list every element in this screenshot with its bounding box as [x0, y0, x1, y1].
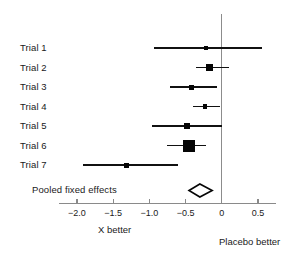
study-label: Trial 5	[20, 120, 47, 131]
effect-estimate-marker	[183, 140, 195, 152]
x-axis-tick-label: −2.0	[62, 208, 92, 218]
x-axis-line	[59, 203, 276, 204]
reference-line-zero	[221, 14, 222, 203]
x-axis-tick	[221, 199, 222, 203]
x-axis-caption-left: X better	[98, 224, 131, 235]
confidence-interval-line	[154, 47, 261, 48]
confidence-interval-line	[83, 164, 179, 165]
study-label: Trial 3	[20, 81, 47, 92]
effect-estimate-marker	[184, 123, 190, 129]
x-axis-tick	[185, 199, 186, 203]
study-label: Trial 4	[20, 101, 47, 112]
study-label: Trial 2	[20, 62, 47, 73]
x-axis-tick-label: 0	[207, 208, 237, 218]
effect-estimate-marker	[204, 46, 208, 50]
pooled-effect-diamond	[187, 182, 214, 199]
study-label: Trial 1	[20, 42, 47, 53]
x-axis-tick-label: 0.5	[243, 208, 273, 218]
pooled-effects-label: Pooled fixed effects	[32, 184, 117, 195]
x-axis-tick	[113, 199, 114, 203]
x-axis-tick	[76, 199, 77, 203]
effect-estimate-marker	[124, 163, 129, 168]
x-axis-caption-right: Placebo better	[219, 236, 280, 247]
study-label: Trial 6	[20, 140, 47, 151]
x-axis-tick	[257, 199, 258, 203]
forest-plot: Trial 1Trial 2Trial 3Trial 4Trial 5Trial…	[0, 0, 307, 254]
x-axis-tick-label: −1.5	[98, 208, 128, 218]
study-label: Trial 7	[20, 159, 47, 170]
plot-area: Trial 1Trial 2Trial 3Trial 4Trial 5Trial…	[0, 0, 307, 254]
x-axis-tick	[149, 199, 150, 203]
effect-estimate-marker	[189, 85, 194, 90]
x-axis-tick-label: −0.5	[171, 208, 201, 218]
effect-estimate-marker	[203, 104, 208, 109]
effect-estimate-marker	[206, 64, 213, 71]
x-axis-tick-label: −1.0	[134, 208, 164, 218]
